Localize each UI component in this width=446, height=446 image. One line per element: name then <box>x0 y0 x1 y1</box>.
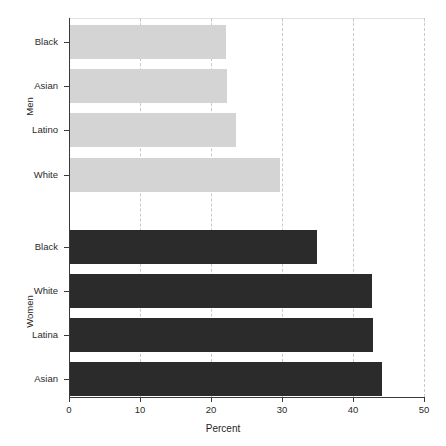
x-tick-label-20: 20 <box>206 404 217 415</box>
x-axis-spine <box>69 397 424 398</box>
y-tick-white-women <box>64 291 69 292</box>
bar-men-white <box>69 158 280 192</box>
x-tick-label-0: 0 <box>66 404 71 415</box>
x-tick-30 <box>282 397 283 402</box>
y-tick-latina-women <box>64 335 69 336</box>
y-tick-label-women-black: Black <box>0 241 58 252</box>
group-label-women: Women <box>24 295 35 329</box>
x-tick-label-50: 50 <box>419 404 430 415</box>
group-label-men: Men <box>24 90 35 124</box>
y-tick-asian-men <box>64 86 69 87</box>
gridline-50 <box>424 18 425 397</box>
bar-men-latino <box>69 113 236 147</box>
x-tick-40 <box>353 397 354 402</box>
plot-area <box>69 18 424 397</box>
x-axis-label: Percent <box>0 423 446 434</box>
x-tick-label-40: 40 <box>348 404 359 415</box>
y-tick-black-women <box>64 247 69 248</box>
y-tick-label-women-asian: Asian <box>0 373 58 384</box>
bar-women-white <box>69 274 372 308</box>
y-tick-latino-men <box>64 130 69 131</box>
x-tick-20 <box>211 397 212 402</box>
x-tick-10 <box>140 397 141 402</box>
y-tick-label-men-latino: Latino <box>0 124 58 135</box>
y-tick-white-men <box>64 175 69 176</box>
bar-men-black <box>69 25 226 59</box>
y-axis-spine <box>69 18 70 397</box>
bar-women-asian <box>69 362 382 396</box>
x-tick-50 <box>424 397 425 402</box>
bar-women-latina <box>69 318 373 352</box>
x-tick-label-10: 10 <box>135 404 146 415</box>
bar-chart: 01020304050 BlackAsianLatinoWhiteBlackWh… <box>0 0 446 446</box>
y-tick-label-men-black: Black <box>0 36 58 47</box>
x-tick-0 <box>69 397 70 402</box>
y-tick-label-women-latina: Latina <box>0 329 58 340</box>
y-tick-black-men <box>64 42 69 43</box>
bar-women-black <box>69 230 317 264</box>
y-tick-asian-women <box>64 379 69 380</box>
y-tick-label-men-white: White <box>0 169 58 180</box>
bar-men-asian <box>69 69 227 103</box>
x-tick-label-30: 30 <box>277 404 288 415</box>
